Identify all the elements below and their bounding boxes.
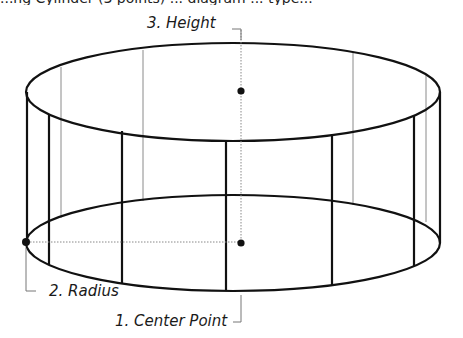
- back-edge-lines: [61, 50, 426, 222]
- bottom-ellipse: [26, 195, 440, 291]
- height-point: [237, 87, 244, 94]
- cylinder-diagram: ...ng Cylinder (3 points) ... diagram ..…: [0, 0, 463, 338]
- center-point: [237, 239, 244, 246]
- guide-lines: [27, 30, 241, 243]
- center-point-label: 1. Center Point: [115, 314, 227, 329]
- radius-point: [22, 238, 30, 246]
- height-label: 3. Height: [147, 16, 216, 31]
- radius-label: 2. Radius: [49, 284, 119, 299]
- top-ellipse: [26, 43, 440, 141]
- front-edge-lines: [27, 92, 440, 291]
- label-leaders: [26, 29, 241, 322]
